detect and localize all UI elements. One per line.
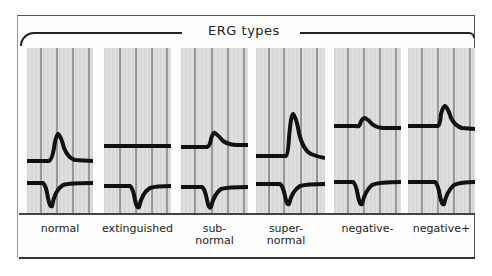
erg-trace-normal: [27, 48, 93, 213]
erg-panel-normal: [27, 48, 93, 213]
label-negative-minus: negative-: [330, 223, 405, 235]
erg-trace-negative-minus: [334, 48, 401, 213]
erg-trace-negative-plus: [408, 48, 475, 213]
erg-panel-negative-minus: [334, 48, 401, 213]
erg-trace-subnormal: [181, 48, 248, 213]
erg-panel-supernormal: [256, 48, 325, 213]
label-subnormal: sub- normal: [181, 223, 248, 247]
erg-trace-extinguished: [104, 48, 171, 213]
figure-title: ERG types: [190, 23, 298, 38]
erg-panel-subnormal: [181, 48, 248, 213]
erg-panel-extinguished: [104, 48, 171, 213]
erg-panel-negative-plus: [408, 48, 475, 213]
title-bracket-right: [300, 32, 475, 38]
title-bracket-left: [20, 32, 182, 46]
erg-trace-supernormal: [256, 48, 325, 213]
bottom-rule: [19, 257, 475, 259]
panel-baseline: [19, 213, 475, 215]
label-negative-plus: negative+: [404, 223, 479, 235]
label-normal: normal: [27, 223, 93, 235]
label-supernormal-line2: normal: [256, 235, 316, 247]
label-supernormal: super- normal: [256, 223, 316, 247]
label-extinguished: extinguished: [96, 223, 179, 235]
label-subnormal-line2: normal: [181, 235, 248, 247]
